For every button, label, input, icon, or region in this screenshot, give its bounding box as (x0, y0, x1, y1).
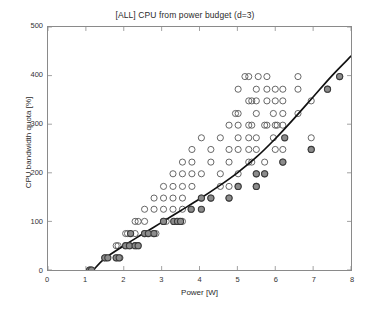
x-tick-label: 2 (113, 275, 133, 284)
plot-canvas (48, 27, 351, 270)
scatter-filled-markers (87, 73, 343, 270)
tick-marks (48, 27, 351, 270)
x-tick-label: 4 (190, 275, 210, 284)
y-tick-label: 0 (9, 266, 43, 275)
plot-area (47, 26, 352, 271)
y-tick-label: 500 (9, 21, 43, 30)
y-axis-label: CPU bandwidth quota [%] (24, 63, 33, 223)
chart-title: [ALL] CPU from power budget (d=3) (0, 10, 370, 20)
x-tick-label: 8 (342, 275, 362, 284)
x-tick-label: 7 (304, 275, 324, 284)
x-tick-label: 1 (75, 275, 95, 284)
x-tick-label: 0 (37, 275, 57, 284)
x-tick-label: 3 (151, 275, 171, 284)
scatter-open-markers (87, 73, 343, 270)
chart-figure: [ALL] CPU from power budget (d=3) 010020… (0, 0, 370, 309)
fit-curve (93, 56, 351, 270)
x-tick-label: 6 (266, 275, 286, 284)
x-axis-label: Power [W] (47, 288, 352, 297)
x-tick-label: 5 (228, 275, 248, 284)
